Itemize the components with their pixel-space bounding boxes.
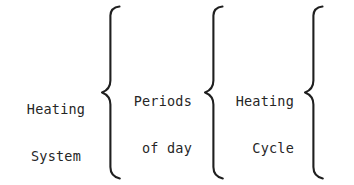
label-line-1: Heating xyxy=(218,94,294,110)
node-label-heating-system: Heating System xyxy=(14,71,98,185)
label-line-1: Heating xyxy=(14,102,98,118)
curly-brace-icon-3 xyxy=(302,4,328,182)
label-line-2: of day xyxy=(118,141,192,157)
label-line-2: System xyxy=(14,149,98,165)
label-line-2: Cycle xyxy=(218,141,294,157)
diagram-canvas: Heating System Periods of day (1,p) Heat… xyxy=(0,0,354,185)
node-label-periods-of-day: Periods of day (1,p) xyxy=(118,63,192,185)
label-line-1: Periods xyxy=(118,94,192,110)
node-label-heating-cycle: Heating Cycle (1,h) xyxy=(218,63,294,185)
